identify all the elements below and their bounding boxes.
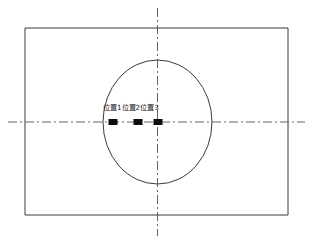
position-marker-3 <box>154 119 163 125</box>
position-marker-2 <box>134 119 143 125</box>
position-label-1: 位置1 <box>103 104 122 111</box>
position-marker-1 <box>109 119 118 125</box>
technical-diagram: 位置1位置2位置3 <box>0 0 312 243</box>
diagram-canvas <box>0 0 312 243</box>
position-label-3: 位置3 <box>140 104 159 111</box>
position-label-2: 位置2 <box>122 104 141 111</box>
position-label-row: 位置1位置2位置3 <box>103 103 159 112</box>
